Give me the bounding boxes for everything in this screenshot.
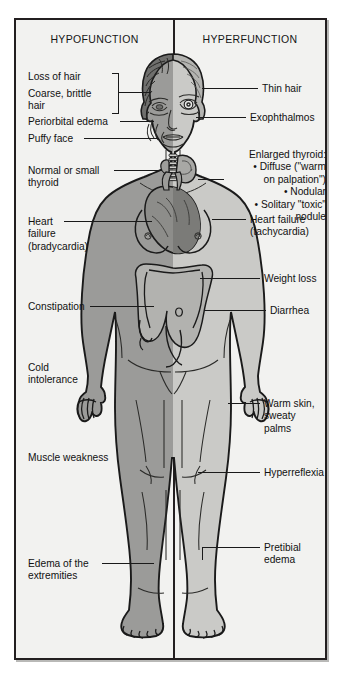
label-warm-skin-sweaty-palms: Warm skin, sweaty palms [264, 398, 325, 435]
leader-pretibial-edema-tick [202, 547, 203, 560]
label-periorbital-edema: Periorbital edema [28, 116, 108, 128]
label-weight-loss: Weight loss [264, 273, 316, 285]
label-loss-of-hair: Loss of hair [28, 71, 81, 83]
leader-puffy-face [84, 138, 159, 139]
label-coarse-brittle-hair: Coarse, brittle hair [28, 88, 91, 113]
leader-hair [118, 92, 151, 93]
leader-diarrhea [204, 310, 266, 311]
leader-hyperreflexia [198, 472, 260, 473]
label-normal-or-small-thyroid: Normal or small thyroid [28, 165, 99, 190]
leader-heart-failure-tachycardia [212, 219, 246, 220]
label-pretibial-edema: Pretibial edema [264, 542, 301, 567]
label-thin-hair: Thin hair [262, 83, 302, 95]
leader-normal-or-small-thyroid [114, 170, 162, 171]
label-hyperreflexia: Hyperreflexia [264, 467, 324, 479]
label-puffy-face: Puffy face [28, 133, 73, 145]
label-diarrhea: Diarrhea [270, 305, 309, 317]
leader-weight-loss [200, 278, 260, 279]
leader-pretibial-edema [202, 547, 260, 548]
hypothyroid-hyperthyroid-comparison-figure: HYPOFUNCTION HYPERFUNCTION [14, 18, 327, 660]
label-heart-failure-tachycardia: Heart failure (tachycardia) [250, 214, 309, 239]
label-edema-of-the-extremities: Edema of the extremities [28, 558, 89, 583]
label-enlarged-thyroid: Enlarged thyroid: • Diffuse ("warm on pa… [192, 149, 326, 223]
leader-edema-of-the-extremities [102, 563, 154, 564]
leader-exophthalmos [196, 117, 246, 118]
label-muscle-weakness: Muscle weakness [28, 452, 108, 464]
leader-heart-failure-bradycardia [64, 221, 152, 222]
leader-warm-skin-sweaty-palms [228, 403, 260, 404]
hair-label-bracket [112, 73, 119, 114]
leader-periorbital-edema [120, 121, 154, 122]
leader-constipation [90, 306, 154, 307]
leader-thin-hair [202, 88, 258, 89]
leader-enlarged-thyroid [198, 179, 224, 180]
label-cold-intolerance: Cold intolerance [28, 362, 78, 387]
label-constipation: Constipation [28, 301, 85, 313]
label-exophthalmos: Exophthalmos [250, 112, 315, 124]
